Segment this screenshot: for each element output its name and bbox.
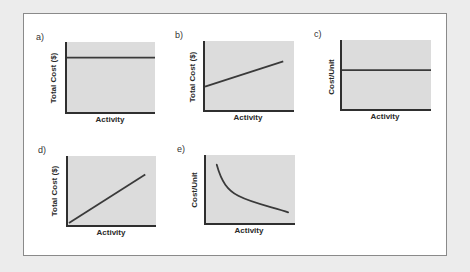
plot-c: [340, 40, 431, 111]
y-axis-label-d: Total Cost ($): [50, 156, 60, 226]
y-axis-label-e: Cost/Unit: [190, 155, 200, 225]
x-axis-label-b: Activity: [203, 113, 293, 122]
x-axis-label-d: Activity: [66, 228, 156, 237]
variable-total-cost-line: [68, 156, 156, 225]
x-axis-label-a: Activity: [65, 115, 155, 124]
x-axis-label-c: Activity: [340, 112, 430, 121]
panel-label-d: d): [38, 145, 46, 155]
plot-e: [204, 155, 295, 225]
decreasing-unit-cost-curve: [206, 155, 295, 223]
plot-b: [203, 41, 294, 112]
panel-label-b: b): [175, 30, 183, 40]
plot-a: [65, 42, 155, 114]
panel-label-e: e): [177, 144, 185, 154]
y-axis-label-c: Cost/Unit: [327, 42, 337, 112]
y-axis-label-a: Total Cost ($): [49, 43, 59, 113]
plot-d: [66, 156, 156, 227]
mixed-cost-line: [205, 41, 294, 110]
x-axis-label-e: Activity: [204, 226, 294, 235]
panel-label-a: a): [36, 32, 44, 42]
y-axis-label-b: Total Cost ($): [188, 42, 198, 112]
fixed-total-cost-line: [67, 42, 155, 112]
constant-unit-cost-line: [342, 40, 431, 109]
panel-label-c: c): [314, 29, 322, 39]
